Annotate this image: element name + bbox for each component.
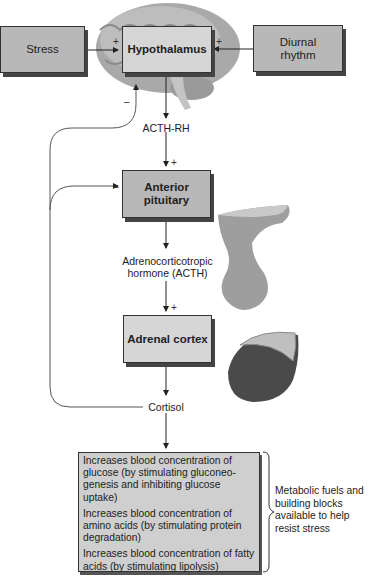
effect-glucose: Increases blood concentration of glucose… [83,455,255,504]
hypothalamus-box: Hypothalamus [122,26,212,73]
adrenal-plus-sign: + [171,302,177,313]
acth-label-line1: Adrenocorticotropic [110,255,225,267]
stress-label: Stress [26,43,59,56]
stress-box: Stress [0,26,85,73]
stress-plus-sign: + [113,36,119,47]
anterior-pituitary-label: Anterior pituitary [137,181,197,207]
cortisol-label: Cortisol [145,401,187,413]
pituitary-plus-sign: + [171,157,177,168]
diurnal-plus-sign: + [216,36,222,47]
diurnal-rhythm-label: Diurnal rhythm [273,36,323,62]
adrenal-gland-illustration [228,332,298,402]
anterior-pituitary-box: Anterior pituitary [122,170,211,218]
effect-amino-acids: Increases blood concentration of amino a… [83,508,255,545]
effect-fatty-acids: Increases blood concentration of fatty a… [83,548,255,572]
acth-rh-label: ACTH-RH [140,122,192,134]
adrenal-cortex-box: Adrenal cortex [123,315,212,363]
outcome-text: Metabolic fuels and building blocks avai… [275,485,371,535]
effects-box: Increases blood concentration of glucose… [78,452,260,572]
hypothalamus-minus-sign: – [124,96,130,107]
acth-label: Adrenocorticotropic hormone (ACTH) [110,255,225,279]
pituitary-minus-sign: – [113,181,119,192]
acth-label-line2: hormone (ACTH) [110,267,225,279]
pituitary-illustration [218,205,290,310]
diurnal-rhythm-box: Diurnal rhythm [253,25,343,72]
hypothalamus-label: Hypothalamus [127,43,206,56]
adrenal-cortex-label: Adrenal cortex [127,333,208,346]
